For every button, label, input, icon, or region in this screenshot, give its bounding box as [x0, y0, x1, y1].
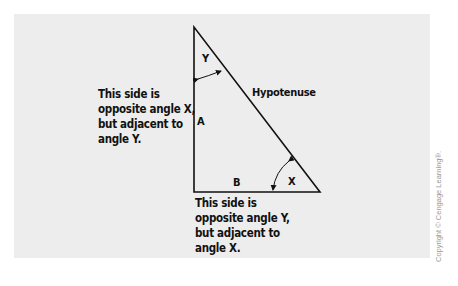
angle-y-arrow-icon	[198, 71, 221, 79]
angle-x-arrow-icon	[273, 161, 289, 190]
triangle-shape	[194, 27, 320, 192]
side-b-label: B	[233, 176, 240, 189]
angle-x-label: X	[288, 175, 295, 188]
side-a-label: A	[197, 115, 204, 128]
side-b-note: This side is opposite angle Y, but adjac…	[195, 196, 290, 256]
copyright-notice: Copyright © Cengage Learning®.	[434, 151, 443, 262]
angle-y-label: Y	[202, 52, 209, 65]
side-a-note: This side is opposite angle X, but adjac…	[98, 87, 195, 147]
hypotenuse-label: Hypotenuse	[252, 86, 316, 99]
